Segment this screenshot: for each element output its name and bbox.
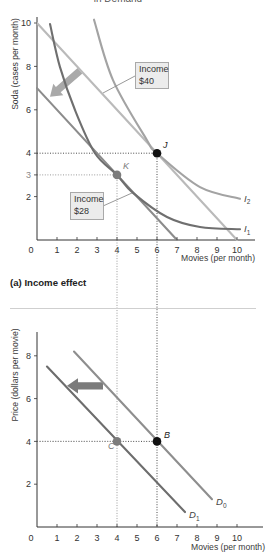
y-tick-label: 2 (26, 479, 31, 489)
point-label-C: C (108, 441, 115, 451)
income-28-label-box: Income $28 (70, 192, 104, 220)
curve-label-subscript: 0 (223, 502, 227, 509)
x-tick-label: 2 (74, 245, 79, 255)
panel-a-title: (a) Income effect (10, 277, 87, 288)
curve-label-subscript: 1 (247, 229, 251, 236)
y-tick-label: 8 (26, 62, 31, 72)
x-tick-label: 3 (94, 245, 99, 255)
x-tick-label: 0 (28, 245, 33, 255)
x-tick-label: 4 (114, 245, 119, 255)
curve-label-subscript: 1 (196, 515, 200, 522)
i2-label: I2 (244, 193, 251, 206)
x-tick-label: 2 (74, 533, 79, 543)
x-tick-label: 7 (174, 533, 179, 543)
series-layer: D0D1 (47, 352, 227, 522)
y-tick-label: 3 (26, 170, 31, 180)
d0-label: D0 (216, 496, 227, 509)
budget-line-income-40-line (37, 23, 237, 240)
y-tick-label: 4 (26, 148, 31, 158)
x-tick-label: 1 (54, 245, 59, 255)
figure-title-partial: in Demand (94, 0, 142, 4)
indifference-curve-chart: I2I1 0123456789102346810 JK Movies (per … (10, 17, 255, 263)
x-tick-label: 1 (54, 533, 59, 543)
shift-arrow-icon (50, 68, 82, 97)
d0-line (74, 352, 212, 500)
budget-line-income-28-line (37, 88, 177, 240)
ticks-layer: 0123456789102346810 (21, 18, 242, 255)
point-label-B: B (164, 430, 170, 440)
income-28-label-line2: $28 (74, 206, 100, 218)
x-tick-label: 7 (174, 245, 179, 255)
curve-label-subscript: 2 (247, 198, 251, 205)
x-axis-label: Movies (per month) (181, 253, 255, 263)
x-tick-label: 0 (28, 533, 33, 543)
x-tick-label: 3 (94, 533, 99, 543)
x-tick-label: 4 (114, 533, 119, 543)
x-tick-label: 5 (134, 533, 139, 543)
y-tick-label: 4 (26, 437, 31, 447)
points-layer: JK (113, 140, 168, 179)
y-tick-label: 10 (21, 18, 31, 28)
x-tick-label: 6 (154, 533, 159, 543)
y-tick-label: 8 (26, 351, 31, 361)
d1-label: D1 (189, 509, 200, 522)
x-tick-label: 5 (134, 245, 139, 255)
y-axis-label: Price (dollars per movie) (10, 328, 20, 421)
y-tick-label: 6 (26, 394, 31, 404)
income-28-label-line1: Income (74, 194, 100, 206)
y-axis-label: Soda (cases per month) (10, 18, 20, 110)
income-40-label-line2: $40 (139, 76, 165, 88)
demand-curve-chart: D0D1 0123456789102468 BC Movies (per mon… (10, 328, 265, 552)
y-tick-label: 2 (26, 192, 31, 202)
x-tick-label: 6 (154, 245, 159, 255)
point-B (153, 437, 162, 446)
income-40-label-line1: Income (139, 64, 165, 76)
point-J (153, 149, 162, 158)
i1-label: I1 (244, 223, 251, 236)
x-axis-label: Movies (per month) (191, 542, 265, 552)
point-label-J: J (162, 140, 168, 150)
income-40-label-box: Income $40 (135, 62, 169, 89)
point-K (113, 171, 122, 180)
y-tick-label: 6 (26, 105, 31, 115)
point-label-K: K (123, 161, 130, 171)
shift-arrow-icon (67, 378, 103, 393)
